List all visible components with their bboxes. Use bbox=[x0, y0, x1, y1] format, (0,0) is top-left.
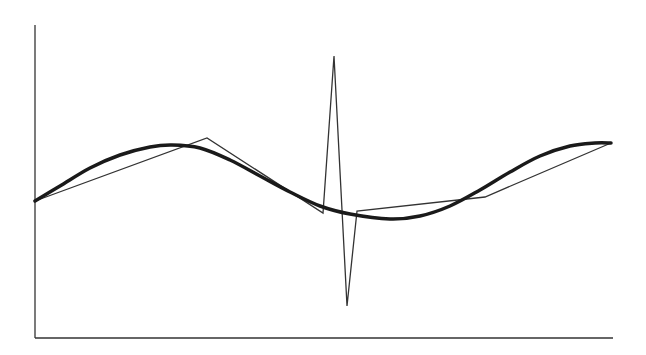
line-chart bbox=[0, 0, 646, 355]
series-piecewise-approximation bbox=[35, 56, 611, 306]
series-smooth-curve bbox=[35, 143, 611, 219]
